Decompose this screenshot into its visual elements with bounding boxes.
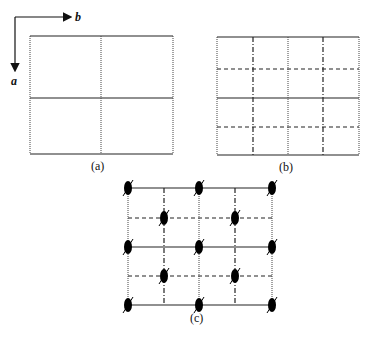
- panel-c-caption: (c): [190, 311, 203, 326]
- b-axis-label: b: [75, 10, 81, 25]
- panel-a-grid: [30, 36, 173, 154]
- panel-a-caption: (a): [91, 159, 104, 174]
- a-axis-label: a: [11, 74, 17, 89]
- panel-b-grid: [217, 37, 359, 155]
- panel-b-caption: (b): [279, 160, 293, 175]
- figure-canvas: [0, 0, 370, 338]
- axis-arrows: [15, 17, 70, 70]
